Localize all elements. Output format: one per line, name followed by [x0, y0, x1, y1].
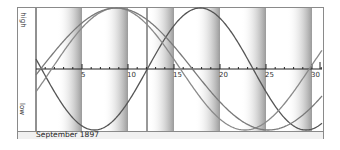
tick-label: 30: [311, 71, 320, 79]
tick-label: 10: [127, 71, 136, 79]
month-label: September 1897: [36, 130, 99, 139]
y-label-low: low: [18, 103, 26, 115]
tick-label: 20: [219, 71, 228, 79]
x-axis-ticks: 51015202530: [45, 62, 321, 79]
tick-label: 15: [173, 71, 182, 79]
tick-label: 5: [81, 71, 85, 79]
tick-label: 25: [265, 71, 274, 79]
y-label-high: high: [19, 12, 27, 27]
biorhythm-chart: 51015202530: [0, 0, 340, 150]
